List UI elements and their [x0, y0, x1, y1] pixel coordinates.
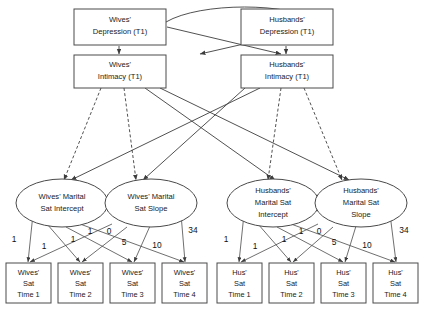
- node-husbands-slope: Husbands' Marital Sat Slope: [315, 179, 407, 227]
- husbands-intercept-loading-1: 1: [224, 234, 229, 244]
- node-wives-intimacy-line1: Wives': [109, 60, 132, 69]
- wives-intercept-loading-2: 1: [42, 241, 47, 251]
- indicator-husbands-time1-line3: Time 1: [228, 290, 250, 299]
- indicator-husbands-time1-line2: Sat: [234, 279, 245, 288]
- node-husbands-intercept-line3: Intercept: [258, 210, 288, 219]
- wives-intercept-loading-4: 1: [88, 226, 93, 236]
- indicator-wives-time1-line3: Time 1: [17, 290, 39, 299]
- husbands-loading-labels: 1 1 1 1 0 5 10 34: [224, 225, 409, 251]
- wives-intercept-loading-3: 1: [71, 234, 76, 244]
- node-husbands-slope-line1: Husbands': [343, 186, 379, 195]
- indicator-husbands-time1: Hus' Sat Time 1: [217, 263, 262, 303]
- indicator-wives-time4-line1: Wives': [174, 268, 196, 277]
- husbands-slope-loading-4: 34: [399, 225, 409, 235]
- node-wives-depression: Wives' Depression (T1): [74, 9, 166, 45]
- path-diagram: Wives' Depression (T1) Husbands' Depress…: [0, 0, 422, 309]
- cross-intimacy-to-growth-factor-paths: [71, 88, 349, 180]
- node-wives-intimacy: Wives' Intimacy (T1): [74, 55, 166, 88]
- node-husbands-depression: Husbands' Depression (T1): [241, 9, 333, 45]
- indicator-husbands-time4-line3: Time 4: [384, 290, 406, 299]
- wives-intercept-loading-1: 1: [12, 234, 17, 244]
- node-wives-slope-line1: Wives' Marital: [127, 192, 174, 201]
- indicator-wives-time3-line1: Wives': [122, 268, 144, 277]
- node-husbands-depression-line1: Husbands': [269, 15, 305, 24]
- husbands-slope-loading-2: 5: [332, 237, 337, 247]
- indicator-wives-time1-line2: Sat: [23, 279, 34, 288]
- node-husbands-intercept-line2: Marital Sat: [255, 198, 292, 207]
- node-wives-intimacy-line2: Intimacy (T1): [98, 72, 143, 81]
- node-husbands-intercept-line1: Husbands': [255, 186, 291, 195]
- indicator-husbands-time2-line3: Time 2: [280, 290, 302, 299]
- indicator-wives-time4-line3: Time 4: [173, 290, 195, 299]
- indicator-husbands-time4: Hus' Sat Time 4: [373, 263, 418, 303]
- node-wives-depression-line1: Wives': [109, 15, 132, 24]
- husbands-slope-loading-3: 10: [362, 240, 372, 250]
- indicator-husbands-time2-line2: Sat: [286, 279, 297, 288]
- husbands-slope-loading-1: 0: [317, 226, 322, 236]
- intimacy-to-growth-factor-paths: [64, 88, 342, 180]
- node-wives-slope: Wives' Marital Sat Slope: [105, 179, 197, 227]
- indicator-husbands-time4-line2: Sat: [390, 279, 401, 288]
- husbands-intercept-loading-2: 1: [253, 241, 258, 251]
- indicator-wives-time3: Wives' Sat Time 3: [110, 263, 155, 303]
- node-husbands-intercept: Husbands' Marital Sat Intercept: [227, 179, 319, 227]
- indicator-husbands-time3: Hus' Sat Time 3: [321, 263, 366, 303]
- node-husbands-intimacy-line2: Intimacy (T1): [265, 72, 310, 81]
- node-husbands-intimacy-line1: Husbands': [269, 60, 305, 69]
- husbands-intercept-loading-4: 1: [299, 226, 304, 236]
- wives-slope-loading-2: 5: [122, 237, 127, 247]
- indicator-wives-time2-line1: Wives': [70, 268, 92, 277]
- indicator-husbands-time2: Hus' Sat Time 2: [269, 263, 314, 303]
- indicator-husbands-time2-line1: Hus': [284, 268, 299, 277]
- husbands-intercept-loading-3: 1: [282, 234, 287, 244]
- indicator-husbands-time3-line1: Hus': [336, 268, 351, 277]
- indicator-wives-time4-line2: Sat: [179, 279, 190, 288]
- indicator-husbands-time4-line1: Hus': [388, 268, 403, 277]
- indicator-wives-time2: Wives' Sat Time 2: [58, 263, 103, 303]
- node-husbands-slope-line3: Slope: [351, 210, 370, 219]
- indicator-wives-time2-line3: Time 2: [69, 290, 91, 299]
- indicator-husbands-time3-line3: Time 3: [332, 290, 354, 299]
- node-husbands-depression-line2: Depression (T1): [260, 27, 315, 36]
- node-husbands-slope-line2: Marital Sat: [343, 198, 380, 207]
- node-husbands-intimacy: Husbands' Intimacy (T1): [241, 55, 333, 88]
- node-wives-slope-line2: Sat Slope: [135, 204, 168, 213]
- indicator-wives-time1: Wives' Sat Time 1: [6, 263, 51, 303]
- wives-slope-loading-1: 0: [107, 226, 112, 236]
- indicator-wives-time1-line1: Wives': [18, 268, 40, 277]
- node-wives-intercept: Wives' Marital Sat Intercept: [16, 179, 108, 227]
- wives-slope-loading-3: 10: [152, 240, 162, 250]
- node-wives-depression-line2: Depression (T1): [93, 27, 148, 36]
- wives-slope-loading-4: 34: [188, 225, 198, 235]
- depression-to-intimacy-paths: [119, 46, 286, 54]
- indicator-wives-time3-line2: Sat: [127, 279, 138, 288]
- indicator-wives-time2-line2: Sat: [75, 279, 86, 288]
- indicator-wives-time3-line3: Time 3: [121, 290, 143, 299]
- node-wives-intercept-line1: Wives' Marital: [38, 192, 85, 201]
- indicator-husbands-time3-line2: Sat: [338, 279, 349, 288]
- node-wives-intercept-line2: Sat Intercept: [40, 204, 84, 213]
- indicator-husbands-time1-line1: Hus': [232, 268, 247, 277]
- indicator-wives-time4: Wives' Sat Time 4: [162, 263, 207, 303]
